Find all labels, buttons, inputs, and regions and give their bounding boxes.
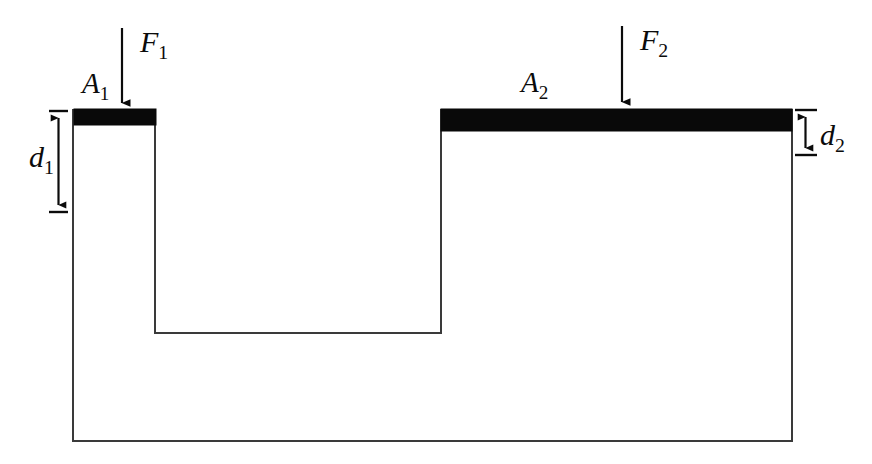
label-area-left: A1 <box>80 67 109 104</box>
label-depth-left: d1 <box>29 140 54 178</box>
label-force-right: F2 <box>639 23 668 61</box>
label-depth-right: d2 <box>820 118 845 156</box>
label-force-left: F1 <box>139 25 168 63</box>
vessel-inner-step <box>155 110 441 333</box>
diagram-canvas: F1 F2 A1 A2 d1 d2 <box>0 0 872 464</box>
vessel-outer-walls <box>73 110 792 441</box>
label-area-right: A2 <box>519 66 548 103</box>
hydraulic-lift-figure: F1 F2 A1 A2 d1 d2 <box>0 0 872 464</box>
piston-right-block <box>441 109 792 131</box>
piston-left-block <box>74 109 156 125</box>
